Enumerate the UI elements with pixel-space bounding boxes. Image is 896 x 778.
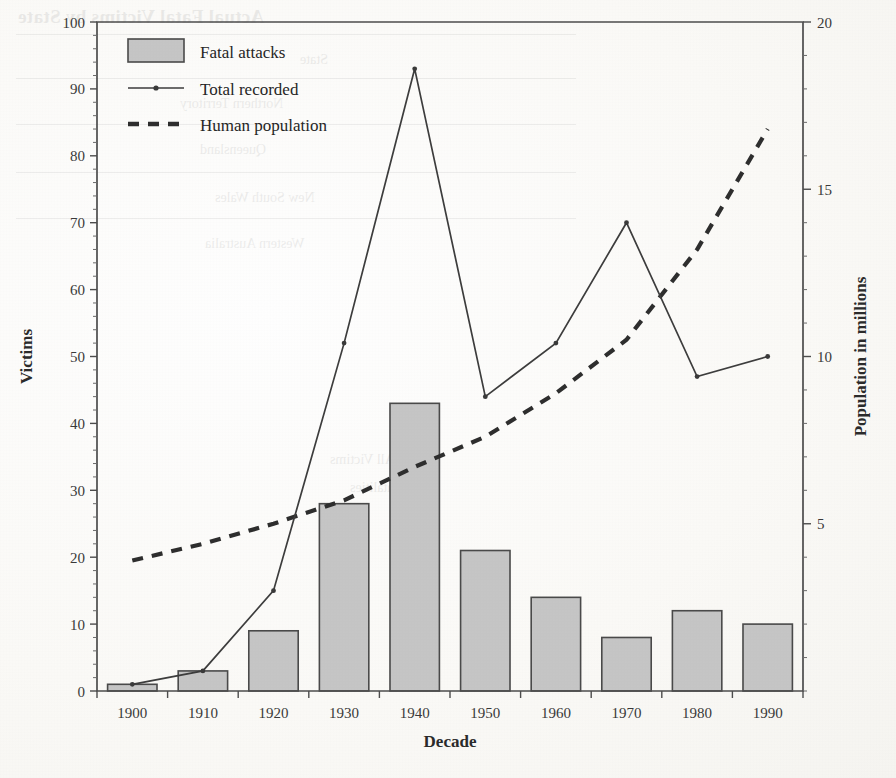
bottom-tick-label-1970: 1970 <box>612 705 642 721</box>
bottom-tick-label-1940: 1940 <box>400 705 430 721</box>
bottom-axis: 1900191019201930194019501960197019801990 <box>97 691 803 721</box>
left-tick-label-50: 50 <box>70 349 85 365</box>
bar-1950[interactable] <box>461 551 510 691</box>
left-axis: 0102030405060708090100 <box>63 15 98 700</box>
legend-marker-total-recorded-point <box>153 85 158 90</box>
total-recorded-line[interactable] <box>132 69 767 684</box>
bottom-tick-label-1990: 1990 <box>753 705 783 721</box>
total-recorded-point-1910[interactable] <box>201 669 206 674</box>
human-population-line[interactable] <box>132 129 767 561</box>
bottom-tick-label-1900: 1900 <box>117 705 147 721</box>
right-tick-label-10: 10 <box>817 349 832 365</box>
total-recorded-point-1940[interactable] <box>412 66 417 71</box>
left-tick-label-0: 0 <box>78 684 86 700</box>
scanned-page: Actual Fatal Victims by State State Nort… <box>0 0 896 778</box>
bar-1970[interactable] <box>602 637 651 691</box>
legend: Fatal attacksTotal recordedHuman populat… <box>128 39 328 135</box>
bar-1960[interactable] <box>531 597 580 691</box>
right-axis: 5101520 <box>803 15 832 692</box>
total-recorded-point-1990[interactable] <box>765 354 770 359</box>
legend-label-fatal-attacks: Fatal attacks <box>200 43 285 62</box>
bar-1930[interactable] <box>319 504 368 691</box>
left-tick-label-90: 90 <box>70 81 85 97</box>
bottom-tick-label-1920: 1920 <box>259 705 289 721</box>
bottom-tick-label-1930: 1930 <box>329 705 359 721</box>
bar-1980[interactable] <box>672 611 721 691</box>
y2-axis-title: Population in millions <box>851 276 870 436</box>
total-recorded-point-1930[interactable] <box>342 341 347 346</box>
bottom-tick-label-1980: 1980 <box>682 705 712 721</box>
total-recorded-point-1960[interactable] <box>554 341 559 346</box>
left-tick-label-20: 20 <box>70 550 85 566</box>
victims-and-population-chart: 0102030405060708090100510152019001910192… <box>0 0 896 778</box>
left-tick-label-70: 70 <box>70 215 85 231</box>
total-recorded-point-1920[interactable] <box>271 588 276 593</box>
right-tick-label-20: 20 <box>817 15 832 31</box>
total-recorded-point-1950[interactable] <box>483 394 488 399</box>
bottom-tick-label-1910: 1910 <box>188 705 218 721</box>
left-tick-label-80: 80 <box>70 148 85 164</box>
bar-1920[interactable] <box>249 631 298 691</box>
legend-label-total-recorded: Total recorded <box>200 80 299 99</box>
left-tick-label-10: 10 <box>70 617 85 633</box>
bottom-tick-label-1960: 1960 <box>541 705 571 721</box>
x-axis-title: Decade <box>424 732 477 751</box>
right-tick-label-5: 5 <box>817 516 825 532</box>
total-recorded-point-1980[interactable] <box>695 374 700 379</box>
left-tick-label-100: 100 <box>63 15 86 31</box>
legend-marker-fatal-attacks <box>128 39 184 62</box>
bar-1990[interactable] <box>743 624 792 691</box>
bar-1940[interactable] <box>390 403 439 691</box>
legend-label-human-population: Human population <box>200 116 328 135</box>
y-axis-title: Victims <box>17 329 36 384</box>
left-tick-label-60: 60 <box>70 282 85 298</box>
bars-group <box>108 403 793 691</box>
total-recorded-point-1970[interactable] <box>624 220 629 225</box>
bottom-tick-label-1950: 1950 <box>470 705 500 721</box>
total-recorded-point-1900[interactable] <box>130 682 135 687</box>
right-tick-label-15: 15 <box>817 182 832 198</box>
left-tick-label-40: 40 <box>70 416 85 432</box>
left-tick-label-30: 30 <box>70 483 85 499</box>
